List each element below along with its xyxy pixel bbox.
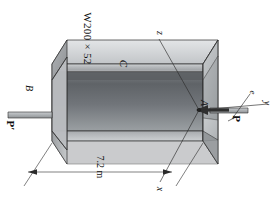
bottom-flange-under-face: [52, 141, 218, 164]
label-point-b: B: [24, 82, 34, 94]
label-point-a: A: [199, 97, 209, 109]
dim-arrow-right: [163, 169, 172, 175]
label-axis-y: y: [262, 98, 272, 108]
label-axis-z: z: [155, 28, 165, 38]
top-flange-upper-face: [52, 40, 218, 64]
label-eccentricity: e: [248, 88, 257, 98]
label-force-p-prime: P′: [5, 118, 16, 134]
label-axis-x: x: [155, 184, 165, 194]
beam-figure: W200 × 52 C B A P P′ e y z x 7.2 m: [0, 0, 280, 205]
label-point-c: C: [118, 58, 129, 70]
beam-body: [52, 40, 218, 164]
left-end-section: [52, 40, 67, 164]
label-section-designation: W200 × 52: [82, 4, 93, 74]
beam-web-face: [52, 72, 203, 131]
beam-diagram-svg: [0, 0, 280, 205]
label-span-dimension: 7.2 m: [95, 150, 105, 184]
label-force-p: P: [231, 112, 242, 126]
bottom-flange-front-face: [52, 131, 203, 141]
extension-line-left: [24, 143, 52, 186]
dim-arrow-left: [28, 169, 37, 175]
web-shadow-band: [52, 72, 203, 80]
